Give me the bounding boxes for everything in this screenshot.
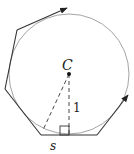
radius-label: 1 [73,101,81,115]
polygon-edge-left-upper [5,30,17,89]
polygon-edge-top-arrow [17,8,67,30]
polygon-edge-right-arrow [97,95,128,135]
polygon-edge-left-lower [5,89,41,135]
center-label: C [62,57,73,73]
polygon-circle-diagram: C 1 s [0,0,134,154]
dashed-line-to-vertex [43,74,69,130]
side-label: s [50,139,56,153]
